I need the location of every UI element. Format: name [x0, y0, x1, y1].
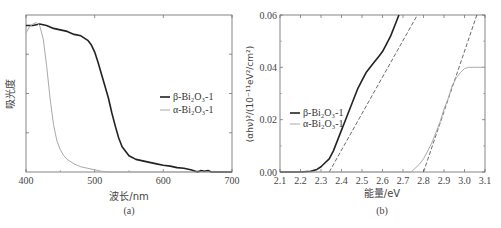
panel-a-y-axis-label: 吸光度 [4, 79, 16, 109]
y-tick-label: 0.02 [260, 114, 278, 125]
panel-b-x-ticks: 2.12.22.32.42.52.62.72.82.93.03.1 [274, 15, 492, 186]
x-tick-label: 2.2 [294, 175, 307, 186]
x-tick-label: 3.0 [458, 175, 471, 186]
x-tick-label: 3.1 [479, 175, 492, 186]
tangent-line-0 [329, 15, 417, 172]
x-tick-label: 600 [156, 175, 171, 186]
panel-b-legend: β-Bi₂O₃-1 α-Bi₂O₃-1 [290, 107, 344, 129]
panel-b-series [280, 15, 485, 172]
legend-label-alpha: α-Bi₂O₃-1 [173, 104, 214, 115]
x-tick-label: 2.3 [315, 175, 328, 186]
x-tick-label: 2.9 [438, 175, 451, 186]
panel-b-tauc-plot: 2.12.22.32.42.52.62.72.82.93.03.1 0.000.… [245, 10, 491, 218]
panel-b-plot-frame [280, 15, 485, 172]
panel-b-y-ticks: 0.000.020.040.06 [260, 10, 486, 178]
legend-label-beta: β-Bi₂O₃-1 [173, 91, 213, 102]
panel-b-y-axis-label: (αhν)²/(10⁻¹¹eV²/cm²) [245, 46, 255, 142]
y-tick-label: 0.06 [260, 10, 278, 21]
panel-a-caption: (a) [123, 205, 134, 217]
panel-a-legend: β-Bi₂O₃-1 α-Bi₂O₃-1 [160, 91, 214, 115]
x-tick-label: 500 [87, 175, 102, 186]
x-tick-label: 2.6 [376, 175, 389, 186]
x-tick-label: 2.8 [417, 175, 430, 186]
x-tick-label: 2.4 [335, 175, 348, 186]
x-tick-label: 400 [19, 175, 34, 186]
series-line-0 [280, 15, 399, 172]
panel-b-tangent-lines [329, 15, 477, 172]
panel-a-x-axis-label: 波长/nm [109, 190, 148, 202]
figure: 400500600700 波长/nm 吸光度 β-Bi₂O₃-1 α-Bi₂O₃… [0, 0, 501, 228]
legend-label-beta: β-Bi₂O₃-1 [303, 107, 343, 118]
y-tick-label: 0.04 [260, 62, 278, 73]
x-tick-label: 2.5 [356, 175, 369, 186]
panel-b-caption: (b) [376, 205, 388, 217]
panel-b-x-axis-label: 能量/eV [364, 187, 401, 199]
panel-a-absorbance-chart: 400500600700 波长/nm 吸光度 β-Bi₂O₃-1 α-Bi₂O₃… [4, 15, 240, 217]
y-tick-label: 0.00 [260, 167, 278, 178]
x-tick-label: 2.7 [397, 175, 410, 186]
x-tick-label: 700 [225, 175, 240, 186]
legend-label-alpha: α-Bi₂O₃-1 [303, 118, 344, 129]
